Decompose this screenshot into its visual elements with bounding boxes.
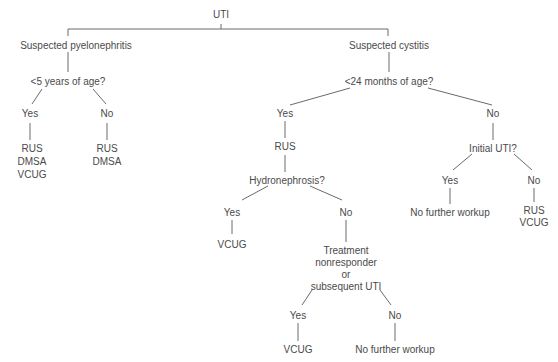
node-hydronephrosis-question: Hydronephrosis? xyxy=(249,174,325,187)
node-pyelo-no: No xyxy=(101,107,114,120)
node-pyelo-yes-result-rus: RUS xyxy=(21,142,42,155)
node-initial-no-vcug: VCUG xyxy=(520,216,549,229)
node-treatment-yes: Yes xyxy=(290,309,306,322)
node-pyelo-no-result-dmsa: DMSA xyxy=(93,155,122,168)
node-initial-yes-no-further-workup: No further workup xyxy=(410,206,489,219)
node-pyelo-yes-result-dmsa: DMSA xyxy=(18,155,47,168)
node-rus: RUS xyxy=(274,140,295,153)
node-pyelo-no-result-rus: RUS xyxy=(96,142,117,155)
node-age-under-5-question: <5 years of age? xyxy=(31,75,106,88)
node-pyelo-yes: Yes xyxy=(22,107,38,120)
node-initial-yes: Yes xyxy=(442,174,458,187)
node-treatment-yes-vcug: VCUG xyxy=(284,343,313,356)
node-treatment-no: No xyxy=(389,309,402,322)
uti-decision-tree: UTI Suspected pyelonephritis <5 years of… xyxy=(0,0,558,362)
node-age-under-24-months-question: <24 months of age? xyxy=(345,75,434,88)
node-cystitis-yes: Yes xyxy=(277,107,293,120)
node-hydronephrosis-yes: Yes xyxy=(224,206,240,219)
node-treatment-line-4: subsequent UTI xyxy=(311,280,382,293)
node-suspected-pyelonephritis: Suspected pyelonephritis xyxy=(20,39,132,52)
node-initial-uti-question: Initial UTI? xyxy=(469,142,517,155)
node-suspected-cystitis: Suspected cystitis xyxy=(349,39,429,52)
node-hydronephrosis-yes-vcug: VCUG xyxy=(218,238,247,251)
node-uti: UTI xyxy=(213,8,229,21)
node-initial-no: No xyxy=(528,174,541,187)
node-pyelo-yes-result-vcug: VCUG xyxy=(18,168,47,181)
node-cystitis-no: No xyxy=(487,107,500,120)
node-treatment-no-further-workup: No further workup xyxy=(355,343,434,356)
node-hydronephrosis-no: No xyxy=(340,206,353,219)
